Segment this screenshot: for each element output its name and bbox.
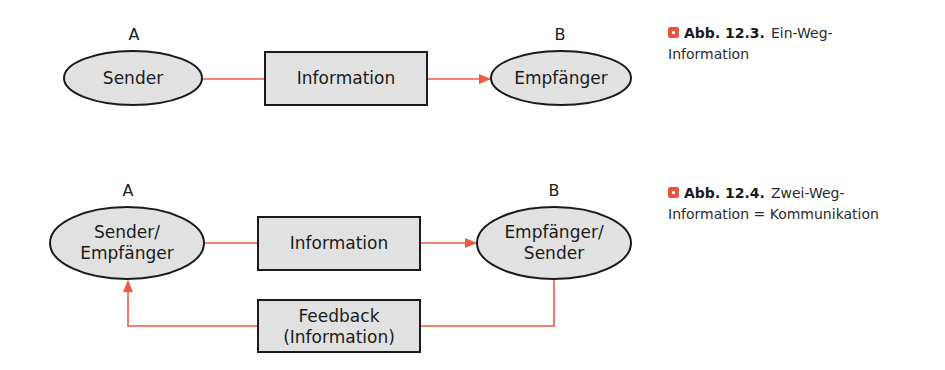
caption-text-line1: Zwei-Weg- xyxy=(771,185,845,201)
caption-text-line2: Information xyxy=(668,46,749,62)
feedback-arrow-to-sender xyxy=(128,281,258,326)
sender-label: Sender xyxy=(103,68,163,88)
feedback-line1: Feedback xyxy=(299,306,380,326)
feedback-line-right xyxy=(420,278,554,326)
caption-figure-12-3: Abb. 12.3.Ein-Weg- Information xyxy=(668,23,938,65)
caption-number: Abb. 12.4. xyxy=(684,185,765,201)
information-label: Information xyxy=(290,233,388,253)
label-a: A xyxy=(129,25,140,44)
label-a: A xyxy=(123,181,134,200)
caption-number: Abb. 12.3. xyxy=(684,25,765,41)
node-a-line2: Empfänger xyxy=(80,243,174,263)
label-b: B xyxy=(555,25,566,44)
node-b-line2: Sender xyxy=(524,243,584,263)
label-b: B xyxy=(549,181,560,200)
caption-marker-icon xyxy=(668,27,679,38)
figure-two-way: A B Sender/ Empfänger Information Empfän… xyxy=(50,181,631,352)
node-b-line1: Empfänger/ xyxy=(504,222,604,242)
receiver-label: Empfänger xyxy=(514,68,608,88)
caption-figure-12-4: Abb. 12.4.Zwei-Weg- Information = Kommun… xyxy=(668,183,938,225)
caption-text-line1: Ein-Weg- xyxy=(771,25,833,41)
node-a-line1: Sender/ xyxy=(94,222,160,242)
caption-text-line2: Information = Kommunikation xyxy=(668,206,879,222)
caption-marker-icon xyxy=(668,187,679,198)
figure-one-way: A B Sender Information Empfänger xyxy=(64,25,631,105)
information-label: Information xyxy=(297,68,395,88)
feedback-line2: (Information) xyxy=(283,327,395,347)
